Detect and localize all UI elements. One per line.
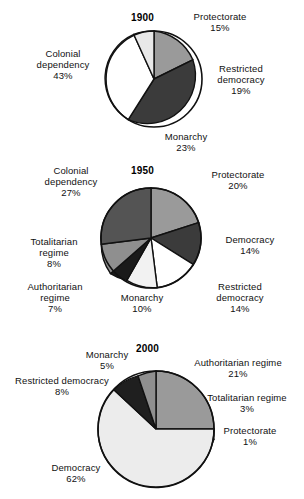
label-percent: 1%: [200, 436, 300, 447]
label-colonial-dependency-1900: Colonial dependency 43%: [14, 48, 112, 81]
label-monarchy-2000: Monarchy 5%: [69, 349, 145, 371]
pie-1950: [99, 186, 203, 290]
label-colonial-dependency-1950: Colonial dependency 27%: [22, 165, 120, 198]
label-text: Protectorate: [194, 11, 247, 22]
label-text-2: regime: [6, 292, 104, 303]
label-text: Totalitarian regime: [207, 392, 287, 403]
pie-chart-1900: 1900 Protectorate 15% Restricted democra…: [0, 0, 304, 155]
label-text: Monarchy: [121, 292, 164, 303]
label-text-2: democracy: [193, 74, 289, 85]
label-percent: 27%: [22, 187, 120, 198]
pie-1900-svg: [104, 29, 204, 129]
label-percent: 21%: [172, 368, 304, 379]
label-totalitarian-regime-2000: Totalitarian regime 3%: [190, 392, 304, 414]
label-percent: 5%: [69, 360, 145, 371]
label-democracy-1950: Democracy 14%: [203, 234, 297, 256]
pie-1900: [104, 29, 204, 129]
label-percent: 19%: [193, 85, 289, 96]
label-monarchy-1950: Monarchy 10%: [106, 292, 178, 314]
label-restricted-democracy-2000: Restricted democracy 8%: [2, 375, 122, 397]
label-percent: 43%: [14, 70, 112, 81]
label-percent: 10%: [106, 303, 178, 314]
pie-chart-1950: 1950 Colonial dependen: [0, 155, 304, 325]
label-text: Colonial: [53, 165, 88, 176]
chart-title-1900: 1900: [131, 12, 154, 23]
label-text: Monarchy: [86, 349, 129, 360]
label-percent: 14%: [192, 303, 288, 314]
label-text: Colonial: [45, 48, 80, 59]
label-text: Totalitarian: [30, 236, 77, 247]
label-protectorate-1900: Protectorate 15%: [168, 11, 272, 33]
label-percent: 7%: [6, 303, 104, 314]
chart-title-1950: 1950: [131, 165, 154, 176]
label-text: Restricted democracy: [15, 375, 109, 386]
pie-1950-svg: [99, 186, 203, 290]
label-text: Protectorate: [212, 169, 265, 180]
pie-chart-2000: 2000 Monarchy 5% Author: [0, 325, 304, 499]
label-percent: 15%: [168, 22, 272, 33]
label-text: Restricted: [218, 281, 262, 292]
label-democracy-2000: Democracy 62%: [28, 462, 124, 484]
label-text: Democracy: [52, 462, 101, 473]
label-text: Protectorate: [224, 425, 277, 436]
pie-chart-figure: 1900 Protectorate 15% Restricted democra…: [0, 0, 304, 499]
label-text-2: regime: [8, 247, 100, 258]
label-percent: 20%: [186, 180, 290, 191]
label-percent: 62%: [28, 473, 124, 484]
label-authoritarian-regime-1950: Authoritarian regime 7%: [6, 281, 104, 314]
label-authoritarian-regime-2000: Authoritarian regime 21%: [172, 357, 304, 379]
label-text-2: democracy: [192, 292, 288, 303]
label-restricted-democracy-1950: Restricted democracy 14%: [192, 281, 288, 314]
label-percent: 14%: [203, 245, 297, 256]
label-protectorate-1950: Protectorate 20%: [186, 169, 290, 191]
label-percent: 8%: [8, 258, 100, 269]
label-totalitarian-regime-1950: Totalitarian regime 8%: [8, 236, 100, 269]
label-text: Authoritarian regime: [194, 357, 282, 368]
label-text: Monarchy: [165, 131, 208, 142]
label-text-2: dependency: [14, 59, 112, 70]
label-monarchy-1900: Monarchy 23%: [143, 131, 229, 153]
label-restricted-democracy-1900: Restricted democracy 19%: [193, 63, 289, 96]
label-percent: 8%: [2, 386, 122, 397]
label-percent: 3%: [190, 403, 304, 414]
label-protectorate-2000: Protectorate 1%: [200, 425, 300, 447]
label-text: Authoritarian: [27, 281, 82, 292]
label-text-2: dependency: [22, 176, 120, 187]
label-text: Democracy: [226, 234, 275, 245]
label-text: Restricted: [219, 63, 263, 74]
label-percent: 23%: [143, 142, 229, 153]
